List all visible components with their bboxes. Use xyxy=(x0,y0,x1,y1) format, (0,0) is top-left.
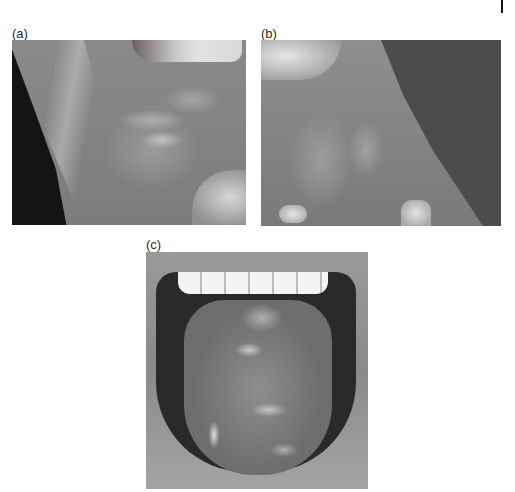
page-edge-marker xyxy=(501,0,503,13)
panel-c-label: (c) xyxy=(146,238,161,252)
lower-teeth xyxy=(192,170,246,225)
panel-c-photo xyxy=(146,252,368,489)
panel-a-photo xyxy=(12,40,246,225)
upper-teeth xyxy=(178,272,328,294)
lower-tooth-left xyxy=(279,205,307,223)
tongue xyxy=(184,300,332,475)
lower-tooth xyxy=(401,200,431,226)
dark-background xyxy=(351,40,501,226)
upper-teeth xyxy=(132,40,242,62)
panel-b-label: (b) xyxy=(261,27,277,41)
panel-a-label: (a) xyxy=(12,27,28,41)
lip xyxy=(261,40,341,80)
panel-b-photo xyxy=(261,40,501,226)
